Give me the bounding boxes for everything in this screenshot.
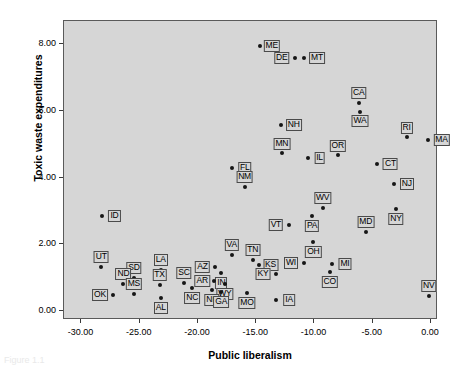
data-point bbox=[375, 162, 379, 166]
data-point-label: MD bbox=[357, 216, 374, 228]
data-point-label: CT bbox=[383, 158, 398, 170]
data-point-label: ME bbox=[264, 40, 280, 52]
data-point-label: OK bbox=[92, 289, 108, 301]
data-point-label: MN bbox=[273, 138, 290, 150]
data-point bbox=[219, 271, 223, 275]
x-tick-mark bbox=[197, 319, 198, 323]
data-point bbox=[100, 214, 104, 218]
data-point bbox=[302, 261, 306, 265]
plot-area: MEDEMTCAWANHRIMAMNORILCTFLNJNMWVNYIDPAVT… bbox=[63, 20, 437, 319]
data-point bbox=[426, 138, 430, 142]
data-point bbox=[219, 290, 223, 294]
data-point bbox=[405, 135, 409, 139]
data-point-label: CO bbox=[321, 276, 337, 288]
data-point bbox=[311, 240, 315, 244]
x-tick-label: -10.00 bbox=[288, 327, 338, 337]
data-point bbox=[357, 101, 361, 105]
data-point bbox=[251, 258, 255, 262]
x-tick-label: -15.00 bbox=[230, 327, 280, 337]
x-tick-label: -30.00 bbox=[55, 327, 105, 337]
data-point bbox=[210, 288, 214, 292]
data-point-label: TX bbox=[152, 269, 166, 281]
data-point-label: OR bbox=[330, 140, 346, 152]
y-tick-label: 2.00 bbox=[16, 238, 56, 248]
data-point-label: ID bbox=[108, 210, 120, 222]
data-point bbox=[306, 156, 310, 160]
data-point-label: PA bbox=[305, 220, 319, 232]
x-tick-mark bbox=[313, 319, 314, 323]
data-point-label: MA bbox=[433, 134, 449, 146]
data-point-label: NM bbox=[236, 171, 253, 183]
data-point bbox=[394, 207, 398, 211]
data-point-label: RI bbox=[400, 122, 412, 134]
x-tick-mark bbox=[80, 319, 81, 323]
data-point bbox=[223, 282, 227, 286]
data-point bbox=[274, 272, 278, 276]
data-point-label: WI bbox=[284, 257, 298, 269]
data-point-label: AL bbox=[154, 302, 168, 314]
data-point bbox=[302, 56, 306, 60]
data-point-label: MI bbox=[338, 258, 351, 270]
data-point-label: LA bbox=[154, 254, 168, 266]
data-point bbox=[279, 123, 283, 127]
y-tick-label: 6.00 bbox=[16, 105, 56, 115]
y-tick-label: 4.00 bbox=[16, 172, 56, 182]
data-point-label: IA bbox=[283, 294, 295, 306]
data-point bbox=[257, 263, 261, 267]
x-tick-label: 0.00 bbox=[405, 327, 454, 337]
data-point bbox=[293, 56, 297, 60]
data-point-label: IL bbox=[314, 152, 325, 164]
x-tick-label: -25.00 bbox=[114, 327, 164, 337]
data-point bbox=[336, 153, 340, 157]
y-tick-label: 0.00 bbox=[16, 305, 56, 315]
x-tick-label: -20.00 bbox=[172, 327, 222, 337]
data-point-label: WA bbox=[351, 115, 368, 127]
data-point bbox=[132, 292, 136, 296]
data-point-label: NV bbox=[421, 280, 436, 292]
data-point-label: NJ bbox=[400, 178, 414, 190]
x-tick-mark bbox=[372, 319, 373, 323]
data-point bbox=[310, 214, 314, 218]
data-point bbox=[364, 230, 368, 234]
data-point-label: MT bbox=[309, 52, 325, 64]
data-point-label: CA bbox=[351, 87, 366, 99]
data-point bbox=[358, 110, 362, 114]
data-point-label: AR bbox=[195, 275, 210, 287]
data-point bbox=[392, 182, 396, 186]
data-point bbox=[330, 262, 334, 266]
data-point bbox=[280, 151, 284, 155]
data-point bbox=[287, 223, 291, 227]
x-tick-mark bbox=[139, 319, 140, 323]
x-tick-mark bbox=[430, 319, 431, 323]
data-point bbox=[427, 294, 431, 298]
data-point bbox=[158, 283, 162, 287]
data-point bbox=[99, 265, 103, 269]
x-axis-title: Public liberalism bbox=[63, 349, 437, 361]
data-point-label: SC bbox=[176, 267, 191, 279]
data-point bbox=[230, 253, 234, 257]
figure-caption: Figure 1.1 bbox=[4, 355, 45, 365]
data-point bbox=[258, 44, 262, 48]
data-point-label: NH bbox=[286, 119, 302, 131]
data-point-label: AZ bbox=[195, 261, 209, 273]
data-point-label: MS bbox=[126, 278, 142, 290]
y-tick-label: 8.00 bbox=[16, 38, 56, 48]
data-point-label: MO bbox=[238, 297, 255, 309]
data-point bbox=[190, 286, 194, 290]
data-point bbox=[245, 291, 249, 295]
data-point bbox=[243, 185, 247, 189]
x-tick-label: -5.00 bbox=[347, 327, 397, 337]
data-point-label: WV bbox=[314, 192, 331, 204]
data-point bbox=[159, 296, 163, 300]
data-point bbox=[213, 265, 217, 269]
data-point-label: TN bbox=[245, 244, 260, 256]
data-point-label: NY bbox=[388, 213, 403, 225]
data-point-label: KY bbox=[256, 268, 271, 280]
data-point bbox=[111, 293, 115, 297]
data-point bbox=[182, 281, 186, 285]
data-point bbox=[230, 166, 234, 170]
data-point-label: NC bbox=[184, 292, 200, 304]
data-point-label: UT bbox=[94, 251, 109, 263]
data-point-label: DE bbox=[274, 52, 289, 64]
